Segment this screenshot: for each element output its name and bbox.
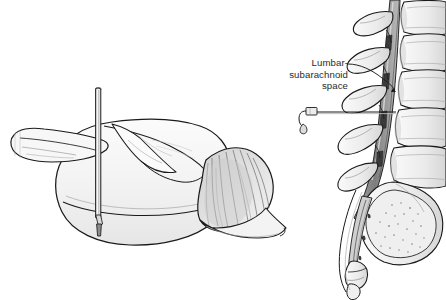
- label-line-2: subarachnoid: [262, 69, 348, 81]
- vertebral-body-l1: [401, 1, 446, 36]
- vertebral-body-l3: [398, 70, 446, 110]
- vertebral-body-l2: [400, 34, 446, 72]
- illustration-canvas: [0, 0, 446, 300]
- vertebral-body-l5: [391, 146, 446, 188]
- vertebral-body-l4: [395, 108, 446, 149]
- lumbar-subarachnoid-space-label: Lumbar- subarachnoid space: [262, 57, 348, 92]
- label-line-3: space: [262, 80, 348, 92]
- needle-tip: [97, 224, 102, 236]
- needle-hub-top: [96, 88, 101, 90]
- draped-patient-panel: [11, 88, 286, 245]
- label-line-1: Lumbar-: [262, 57, 348, 69]
- lumbar-spine-panel: [338, 0, 446, 300]
- spinal-needle-hub: [306, 108, 317, 116]
- illustration-figure: Lumbar- subarachnoid space: [0, 0, 446, 300]
- coccyx-tip: [347, 284, 360, 300]
